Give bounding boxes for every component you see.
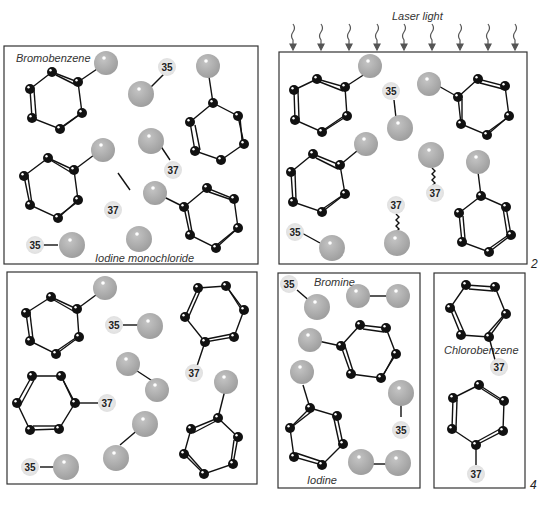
- svg-text:35: 35: [24, 462, 36, 473]
- panel-number-4: 4: [530, 478, 537, 492]
- svg-text:37: 37: [390, 200, 402, 211]
- svg-text:35: 35: [283, 279, 295, 290]
- svg-text:35: 35: [29, 240, 41, 251]
- svg-text:35: 35: [161, 62, 173, 73]
- halogen-atoms: [53, 51, 490, 480]
- svg-text:37: 37: [188, 368, 200, 379]
- svg-text:37: 37: [107, 205, 119, 216]
- label-laser-light: Laser light: [392, 10, 444, 22]
- bonds: [17, 67, 511, 474]
- svg-text:35: 35: [108, 320, 120, 331]
- label-bromine: Bromine: [314, 276, 355, 288]
- svg-text:35: 35: [289, 227, 301, 238]
- svg-text:37: 37: [167, 165, 179, 176]
- svg-text:37: 37: [101, 398, 113, 409]
- panel-number-2: 2: [530, 257, 538, 271]
- svg-text:35: 35: [385, 86, 397, 97]
- svg-text:37: 37: [470, 469, 482, 480]
- laser-arrows: [290, 24, 518, 50]
- label-bromobenzene: Bromobenzene: [16, 52, 91, 64]
- svg-text:37: 37: [429, 188, 441, 199]
- svg-text:35: 35: [395, 425, 407, 436]
- label-chlorobenzene: Chlorobenzene: [444, 344, 519, 356]
- label-iodine-monochloride: Iodine monochloride: [95, 252, 194, 264]
- chlorine-atoms: 35 37 37 35 35 37 37 35 35 37 37 35 35 3…: [21, 58, 508, 483]
- isotope-separation-diagram: Bromobenzene Iodine monochloride Laser l…: [0, 0, 560, 506]
- label-iodine: Iodine: [307, 474, 337, 486]
- svg-text:37: 37: [493, 362, 505, 373]
